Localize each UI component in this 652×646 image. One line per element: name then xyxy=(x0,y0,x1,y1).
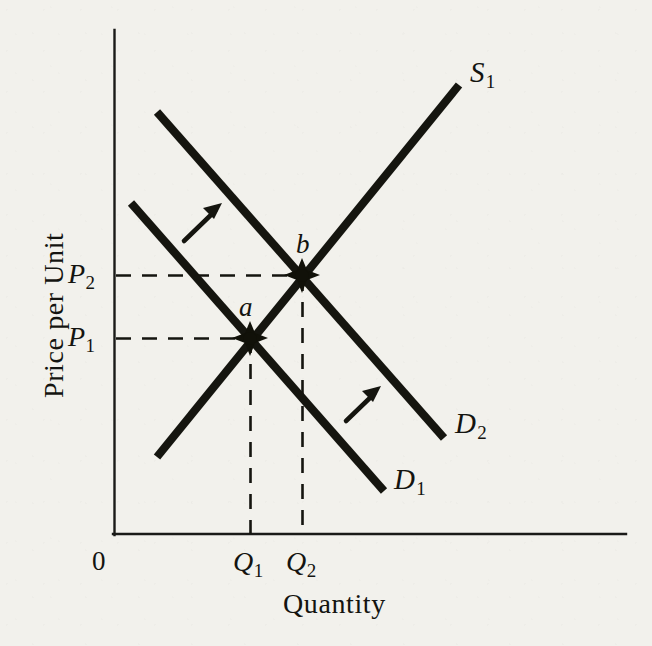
price-tick-p2-main: P xyxy=(68,258,85,289)
curve-label-d1: D1 xyxy=(394,463,425,496)
curve-label-s1: S1 xyxy=(470,56,495,89)
quantity-tick-label-q1: Q1 xyxy=(233,546,263,578)
curve-label-d1-sub: 1 xyxy=(416,478,426,499)
curve-label-s1-sub: 1 xyxy=(486,71,496,92)
curve-label-d1-main: D xyxy=(394,463,415,495)
point-label-a: a xyxy=(239,292,253,323)
curve-label-d2-main: D xyxy=(455,407,476,439)
quantity-tick-label-q2: Q2 xyxy=(286,546,316,578)
price-tick-p1-main: P xyxy=(68,321,85,352)
quantity-tick-q1-sub: 1 xyxy=(254,560,264,581)
supply-demand-figure: S1 D1 D2 P2 P1 Q1 Q2 a b 0 Price per Uni… xyxy=(0,0,652,646)
curve-label-d2-sub: 2 xyxy=(477,422,487,443)
point-label-b: b xyxy=(296,229,310,260)
quantity-tick-q2-main: Q xyxy=(286,546,306,577)
quantity-tick-q1-main: Q xyxy=(233,546,253,577)
price-tick-label-p1: P1 xyxy=(68,321,95,353)
price-tick-p2-sub: 2 xyxy=(86,272,96,293)
curve-label-s1-main: S xyxy=(470,56,485,88)
y-axis-title: Price per Unit xyxy=(38,233,70,398)
quantity-tick-q2-sub: 2 xyxy=(307,560,317,581)
origin-label: 0 xyxy=(92,546,106,577)
shift-arrow-upper xyxy=(184,203,222,241)
curve-label-d2: D2 xyxy=(455,407,486,440)
x-axis-title: Quantity xyxy=(283,588,386,620)
price-tick-label-p2: P2 xyxy=(68,258,95,290)
shift-arrow-lower xyxy=(346,386,381,421)
price-tick-p1-sub: 1 xyxy=(86,335,96,356)
